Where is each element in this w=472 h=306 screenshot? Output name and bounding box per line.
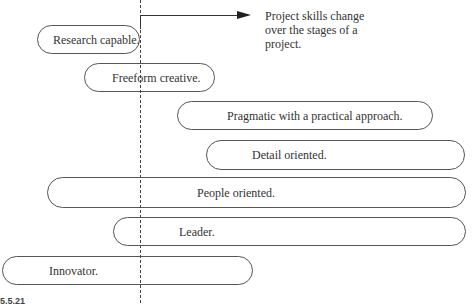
annotation-line-1: Project skills change: [265, 9, 425, 23]
annotation-note: Project skills change over the stages of…: [265, 9, 425, 51]
timeline-dashed-line: [140, 0, 141, 303]
skill-pill-people-oriented: People oriented.: [47, 177, 466, 208]
skill-pill-leader: Leader.: [113, 217, 466, 246]
skill-pill-innovator: Innovator.: [2, 256, 253, 285]
skill-pill-freeform-creative: Freeform creative.: [84, 63, 215, 92]
skill-label: Pragmatic with a practical approach.: [227, 110, 403, 122]
figure-label: 5.5.21: [0, 297, 25, 306]
arrow-right-icon: [237, 11, 251, 19]
arrow-connector-vertical: [140, 15, 141, 29]
skill-label: Detail oriented.: [252, 149, 327, 161]
skill-pill-pragmatic: Pragmatic with a practical approach.: [177, 101, 433, 130]
skill-label: Innovator.: [49, 265, 98, 277]
annotation-line-2: over the stages of a: [265, 23, 425, 37]
arrow-connector-horizontal: [140, 15, 238, 16]
skill-label: People oriented.: [197, 187, 275, 199]
annotation-line-3: project.: [265, 37, 425, 51]
skill-label: Research capable.: [53, 34, 140, 46]
skill-pill-detail-oriented: Detail oriented.: [206, 140, 465, 170]
skill-label: Freeform creative.: [112, 72, 201, 84]
skill-pill-research-capable: Research capable.: [37, 25, 140, 54]
skill-label: Leader.: [179, 226, 215, 238]
